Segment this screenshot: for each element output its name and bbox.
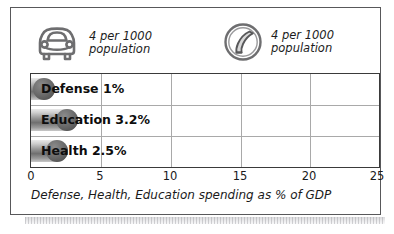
plot-area: Defense 1% Education 3.2% Health 2.5% <box>30 73 380 168</box>
legend-item-car: 4 per 1000 population <box>31 20 152 66</box>
x-tick-25: 25 <box>370 169 385 183</box>
x-axis: 0 5 10 15 20 25 <box>30 169 380 185</box>
bar-label-education: Education 3.2% <box>41 109 150 131</box>
chart-figure: 4 per 1000 population 4 per 1000 populat… <box>0 0 394 234</box>
car-icon <box>31 20 83 66</box>
scan-artifact-strip <box>25 217 385 224</box>
telephone-icon <box>221 20 265 64</box>
x-tick-10: 10 <box>163 169 178 183</box>
bar-row-health: Health 2.5% <box>31 136 379 167</box>
chart-panel: 4 per 1000 population 4 per 1000 populat… <box>10 7 381 215</box>
x-tick-20: 20 <box>302 169 317 183</box>
legend-label-car: 4 per 1000 population <box>89 30 152 56</box>
plot-inner: Defense 1% Education 3.2% Health 2.5% <box>31 74 379 167</box>
bar-label-defense: Defense 1% <box>41 78 124 100</box>
x-tick-5: 5 <box>96 169 103 183</box>
bar-row-defense: Defense 1% <box>31 74 379 105</box>
legend-item-telephone: 4 per 1000 population <box>221 20 334 64</box>
bar-row-education: Education 3.2% <box>31 105 379 136</box>
chart-caption: Defense, Health, Education spending as %… <box>31 188 331 202</box>
x-tick-0: 0 <box>27 169 34 183</box>
legend-label-telephone: 4 per 1000 population <box>271 29 334 55</box>
x-tick-15: 15 <box>233 169 248 183</box>
bar-label-health: Health 2.5% <box>41 140 127 162</box>
